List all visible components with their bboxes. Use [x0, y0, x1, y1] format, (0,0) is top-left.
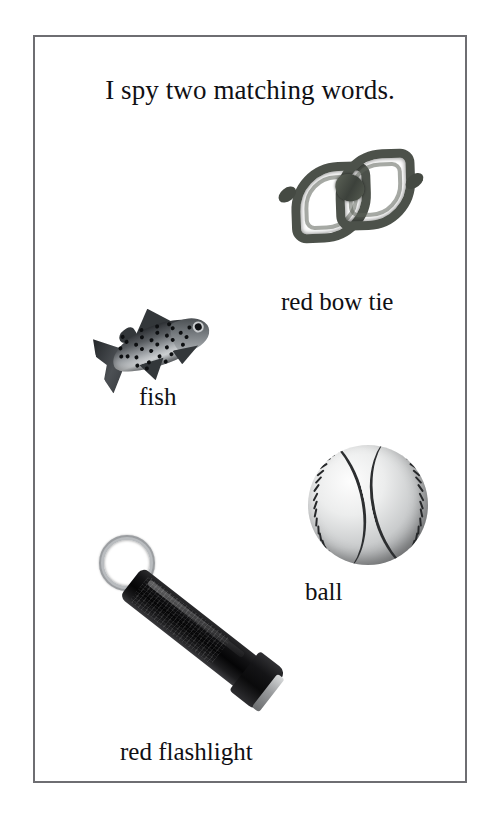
- item-label-bow-tie: red bow tie: [281, 289, 393, 314]
- fish-spots-group: [84, 281, 201, 324]
- baseball-image: [308, 445, 428, 565]
- item-label-flashlight: red flashlight: [120, 739, 253, 764]
- baseball-right-seam-icon: [355, 445, 428, 565]
- worksheet-card: I spy two matching words. red bow tie fi…: [33, 35, 467, 783]
- flashlight-grip-texture-icon: [129, 576, 231, 665]
- page-title: I spy two matching words.: [35, 75, 465, 106]
- item-label-fish: fish: [139, 384, 177, 409]
- flashlight-body-icon: [119, 567, 262, 691]
- bow-tie-image: [266, 121, 441, 268]
- fish-spot-icon: [163, 359, 168, 364]
- flashlight-image: [93, 529, 323, 734]
